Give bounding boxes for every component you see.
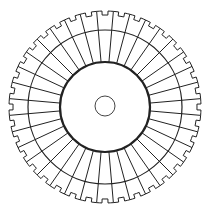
radial-spoke	[117, 14, 130, 63]
radial-spoke	[137, 39, 173, 75]
radial-spoke	[64, 20, 86, 66]
radial-spoke	[150, 99, 201, 103]
radial-spoke	[9, 111, 60, 115]
radial-spoke	[18, 126, 64, 148]
radial-spoke	[12, 119, 61, 132]
radial-spoke	[124, 20, 146, 66]
radial-spoke	[146, 66, 192, 88]
radial-spoke	[37, 139, 73, 175]
radial-spoke	[64, 148, 86, 194]
radial-spoke	[80, 14, 93, 63]
inner-thick-ring	[60, 62, 150, 152]
radial-spoke	[148, 82, 197, 95]
radial-spoke	[146, 126, 192, 148]
radial-spoke	[124, 148, 146, 194]
radial-spoke	[18, 66, 64, 88]
radial-spoke	[37, 39, 73, 75]
radial-spoke	[80, 150, 93, 199]
radial-spoke	[148, 119, 197, 132]
radial-spoke	[109, 11, 113, 62]
radial-spoke	[97, 152, 101, 203]
radial-spoke	[9, 99, 60, 103]
radial-spoke	[150, 111, 201, 115]
radial-spoke	[117, 150, 130, 199]
notched-disk-diagram	[0, 0, 212, 214]
diagram-canvas	[0, 0, 212, 214]
radial-spoke	[12, 82, 61, 95]
radial-spoke	[109, 152, 113, 203]
radial-spoke	[137, 139, 173, 175]
radial-spoke	[97, 11, 101, 62]
